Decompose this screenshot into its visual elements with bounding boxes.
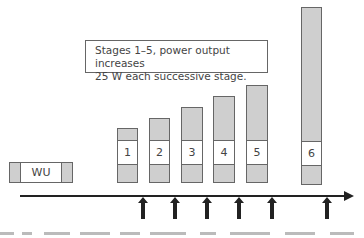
note-line-1: Stages 1–5, power output increases bbox=[95, 44, 267, 70]
time-axis bbox=[20, 195, 346, 197]
up-arrow-icon bbox=[322, 197, 332, 219]
stage-label: 2 bbox=[150, 140, 169, 165]
stage-label: 3 bbox=[182, 140, 202, 165]
stage-bar-2: 2 bbox=[149, 118, 170, 183]
up-arrow-icon bbox=[234, 197, 244, 219]
stage-label: 6 bbox=[302, 141, 321, 166]
stage-description-box: Stages 1–5, power output increases 25 W … bbox=[85, 40, 268, 73]
stage-label: 5 bbox=[247, 140, 267, 165]
stage-bar-1: 1 bbox=[117, 128, 138, 183]
stage-bar-5: 5 bbox=[246, 85, 268, 183]
note-line-2: 25 W each successive stage. bbox=[95, 70, 267, 83]
up-arrow-icon bbox=[170, 197, 180, 219]
stage-label: 1 bbox=[118, 140, 137, 165]
stage-bar-4: 4 bbox=[213, 96, 235, 183]
stage-label: 4 bbox=[214, 140, 234, 165]
warmup-label: WU bbox=[20, 163, 62, 182]
up-arrow-icon bbox=[202, 197, 212, 219]
warmup-block: WU bbox=[9, 162, 73, 183]
figure-caption-cropped bbox=[0, 229, 364, 238]
axis-arrowhead-icon bbox=[344, 191, 354, 201]
stage-bar-3: 3 bbox=[181, 107, 203, 183]
up-arrow-icon bbox=[138, 197, 148, 219]
up-arrow-icon bbox=[267, 197, 277, 219]
stage-bar-6: 6 bbox=[301, 7, 322, 185]
